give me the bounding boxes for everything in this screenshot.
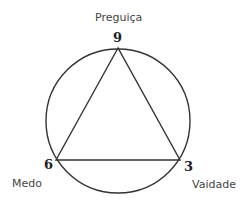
node-label-top: Preguiça [95,12,142,23]
node-label-left: Medo [12,178,42,189]
inner-triangle [56,48,180,160]
enneagram-diagram: Preguiça 9 6 Medo 3 Vaidade [0,0,245,209]
node-number-left: 6 [44,158,53,171]
node-number-right: 3 [184,160,193,173]
outer-circle [46,49,190,193]
node-number-top: 9 [113,31,122,44]
node-label-right: Vaidade [192,179,236,190]
